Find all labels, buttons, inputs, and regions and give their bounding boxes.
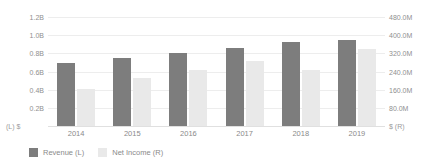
legend-item[interactable]: Revenue (L)	[29, 148, 84, 157]
y-axis-left-tick: 1.2B	[4, 14, 44, 21]
y-axis-left-tick: 1.0B	[4, 32, 44, 39]
chart-legend: Revenue (L)Net Income (R)	[29, 148, 163, 157]
bar-revenue[interactable]	[226, 48, 244, 126]
legend-label: Net Income (R)	[112, 148, 163, 157]
legend-item[interactable]: Net Income (R)	[98, 148, 163, 157]
bars-layer	[48, 17, 385, 126]
bar-group	[48, 17, 104, 126]
y-axis-right-tick: 400.0M	[389, 32, 433, 39]
bar-revenue[interactable]	[169, 53, 187, 126]
bar-group	[104, 17, 160, 126]
y-axis-right-tick: 320.0M	[389, 50, 433, 57]
bar-net-income[interactable]	[77, 89, 95, 126]
bar-group	[217, 17, 273, 126]
bar-revenue[interactable]	[113, 58, 131, 126]
y-axis-left-tick: 0.6B	[4, 69, 44, 76]
x-axis-tick-2014: 2014	[48, 129, 104, 138]
axis-baseline	[48, 126, 385, 127]
y-axis-left-tick: 0.2B	[4, 105, 44, 112]
legend-swatch-icon	[29, 148, 38, 157]
x-axis-tick-2016: 2016	[160, 129, 216, 138]
bar-net-income[interactable]	[302, 70, 320, 126]
left-axis-unit-label: (L) $	[6, 123, 20, 130]
y-axis-left-tick: 0.4B	[4, 87, 44, 94]
right-axis-unit-label: $ (R)	[389, 123, 405, 130]
y-axis-right-tick: 160.0M	[389, 87, 433, 94]
x-axis: 201420152016201720182019	[48, 129, 385, 141]
bar-net-income[interactable]	[189, 70, 207, 126]
bar-revenue[interactable]	[338, 40, 356, 126]
bar-net-income[interactable]	[133, 78, 151, 126]
bar-net-income[interactable]	[358, 49, 376, 126]
y-axis-right-tick: 480.0M	[389, 14, 433, 21]
revenue-net-income-bar-chart: 1.2B1.0B0.8B0.6B0.4B0.2B480.0M400.0M320.…	[0, 0, 433, 167]
y-axis-right-tick: 240.0M	[389, 69, 433, 76]
x-axis-tick-2018: 2018	[273, 129, 329, 138]
bar-group	[160, 17, 216, 126]
bar-revenue[interactable]	[282, 42, 300, 126]
y-axis-right-tick: 80.0M	[389, 105, 433, 112]
legend-label: Revenue (L)	[43, 148, 84, 157]
bar-net-income[interactable]	[246, 61, 264, 126]
x-axis-tick-2019: 2019	[329, 129, 385, 138]
x-axis-tick-2015: 2015	[104, 129, 160, 138]
bar-group	[329, 17, 385, 126]
bar-revenue[interactable]	[57, 63, 75, 126]
x-axis-tick-2017: 2017	[217, 129, 273, 138]
legend-swatch-icon	[98, 148, 107, 157]
bar-group	[273, 17, 329, 126]
y-axis-left-tick: 0.8B	[4, 50, 44, 57]
